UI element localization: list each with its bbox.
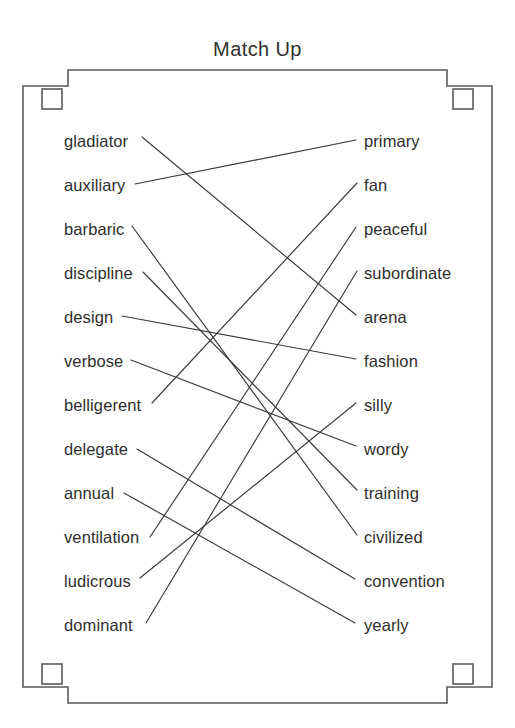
right-word-item[interactable]: subordinate <box>364 265 451 282</box>
right-word-item[interactable]: training <box>364 485 419 502</box>
match-line[interactable] <box>146 271 357 623</box>
left-word-item[interactable]: delegate <box>64 441 128 458</box>
left-word-item[interactable]: annual <box>64 485 114 502</box>
match-line[interactable] <box>143 272 357 490</box>
right-word-item[interactable]: wordy <box>364 441 409 458</box>
left-word-item[interactable]: barbaric <box>64 221 124 238</box>
left-word-item[interactable]: discipline <box>64 265 133 282</box>
right-word-item[interactable]: yearly <box>364 617 409 634</box>
left-word-item[interactable]: gladiator <box>64 133 128 150</box>
match-line[interactable] <box>122 316 356 359</box>
left-word-item[interactable]: design <box>64 309 113 326</box>
left-word-item[interactable]: belligerent <box>64 397 141 414</box>
match-line[interactable] <box>142 137 356 315</box>
left-word-item[interactable]: verbose <box>64 353 123 370</box>
right-word-item[interactable]: fan <box>364 177 387 194</box>
left-word-item[interactable]: auxiliary <box>64 177 125 194</box>
right-word-item[interactable]: arena <box>364 309 407 326</box>
worksheet-page: Match Up gladiatorauxiliarybarbaricdisci… <box>0 0 515 728</box>
right-word-item[interactable]: silly <box>364 397 392 414</box>
right-word-item[interactable]: peaceful <box>364 221 427 238</box>
match-line[interactable] <box>152 183 357 403</box>
right-word-item[interactable]: convention <box>364 573 445 590</box>
left-word-item[interactable]: ludicrous <box>64 573 131 590</box>
match-line[interactable] <box>132 226 357 535</box>
right-word-item[interactable]: civilized <box>364 529 423 546</box>
match-line[interactable] <box>137 449 355 579</box>
match-line[interactable] <box>135 140 356 184</box>
left-word-item[interactable]: ventilation <box>64 529 139 546</box>
match-line[interactable] <box>140 403 356 578</box>
match-line[interactable] <box>131 360 356 446</box>
left-word-item[interactable]: dominant <box>64 617 133 634</box>
right-word-item[interactable]: fashion <box>364 353 418 370</box>
right-word-item[interactable]: primary <box>364 133 420 150</box>
